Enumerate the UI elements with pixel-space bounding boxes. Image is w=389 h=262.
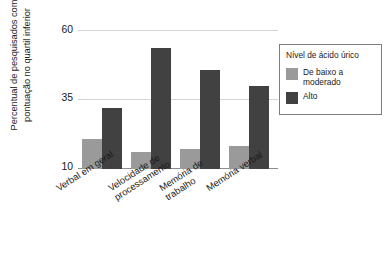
bar-group-velocidade-de-processamento xyxy=(131,28,171,169)
y-tick-35: 35 xyxy=(33,92,73,103)
legend-label-de-baixo-a-moderado: De baixo a moderado xyxy=(303,67,343,87)
y-tick-10: 10 xyxy=(33,161,73,172)
legend-title: Nível de ácido úrico xyxy=(286,50,376,60)
bar-group-memoria-de-trabalho xyxy=(180,28,220,169)
y-axis-title-line1: Percentual de pesquisados com xyxy=(9,0,19,130)
legend: Nível de ácido úrico De baixo a moderado… xyxy=(279,44,382,115)
legend-label-low-line1: De baixo a xyxy=(303,67,343,77)
y-axis-title-line2: pontuação no quartil inferior xyxy=(21,8,31,122)
legend-item-de-baixo-a-moderado[interactable]: De baixo a moderado xyxy=(286,67,376,87)
bar-group-verbal-em-geral xyxy=(82,28,122,169)
bar-memoria-trabalho-high[interactable] xyxy=(200,70,220,169)
bar-chart: Percentual de pesquisados com pontuação … xyxy=(0,0,389,262)
y-axis-title: Percentual de pesquisados com pontuação … xyxy=(8,0,44,153)
legend-swatch-high-icon xyxy=(286,92,298,104)
legend-label-low-line2: moderado xyxy=(303,77,341,87)
y-tick-60: 60 xyxy=(33,24,73,35)
bar-group-memoria-verbal xyxy=(229,28,269,169)
legend-label-alto: Alto xyxy=(303,91,317,101)
legend-swatch-low-icon xyxy=(286,68,298,80)
legend-item-alto[interactable]: Alto xyxy=(286,91,376,104)
